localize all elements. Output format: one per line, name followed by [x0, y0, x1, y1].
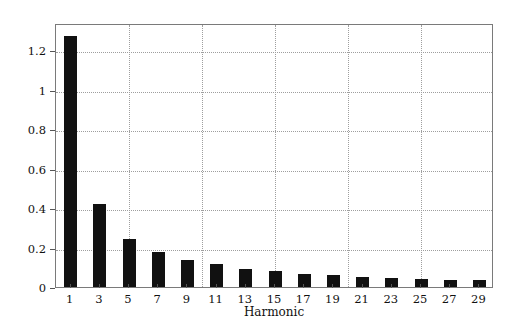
x-tick-label: 21 — [354, 292, 369, 306]
x-tick-label: 1 — [66, 292, 73, 306]
bar — [327, 275, 340, 287]
y-tick-label: 0.2 — [28, 242, 46, 256]
x-tick-label: 15 — [267, 292, 282, 306]
y-tick-label: 0.8 — [28, 123, 46, 137]
y-tick-label: 0.4 — [28, 202, 46, 216]
x-tick-label: 13 — [237, 292, 252, 306]
bar-chart-figure: Amplitude of force 00.20.40.60.811.2 135… — [0, 0, 517, 329]
x-tick-label: 7 — [154, 292, 161, 306]
x-tick-label: 19 — [325, 292, 340, 306]
bar — [181, 260, 194, 287]
y-tick-label: 1 — [39, 84, 46, 98]
bar — [415, 279, 428, 287]
x-tick-mark — [157, 284, 158, 288]
bar — [298, 274, 311, 287]
grid-line-vertical — [202, 25, 203, 287]
bar — [93, 204, 106, 287]
bar — [385, 278, 398, 287]
y-axis-ticks: 00.20.40.60.811.2 — [0, 24, 55, 288]
bar — [123, 239, 136, 287]
x-tick-mark — [274, 284, 275, 288]
x-tick-mark — [128, 284, 129, 288]
x-tick-mark — [99, 284, 100, 288]
grid-line-horizontal — [56, 171, 492, 172]
x-tick-mark — [362, 284, 363, 288]
y-tick-mark — [50, 288, 55, 289]
y-tick-label: 1.2 — [28, 44, 46, 58]
grid-line-vertical — [275, 25, 276, 287]
x-tick-label: 25 — [413, 292, 428, 306]
x-tick-mark — [216, 284, 217, 288]
bar — [356, 277, 369, 287]
x-tick-mark — [303, 284, 304, 288]
x-tick-mark — [332, 284, 333, 288]
grid-line-vertical — [129, 25, 130, 287]
grid-line-vertical — [348, 25, 349, 287]
x-tick-mark — [391, 284, 392, 288]
grid-layer — [56, 25, 492, 287]
bar-series — [56, 25, 492, 287]
bar — [64, 36, 77, 287]
x-tick-mark — [245, 284, 246, 288]
bar — [239, 269, 252, 287]
x-tick-label: 23 — [383, 292, 398, 306]
x-tick-label: 3 — [95, 292, 102, 306]
bar — [152, 252, 165, 287]
x-tick-label: 29 — [471, 292, 486, 306]
x-tick-label: 9 — [183, 292, 190, 306]
x-tick-mark — [449, 284, 450, 288]
y-tick-label: 0 — [39, 281, 46, 295]
x-tick-label: 11 — [208, 292, 223, 306]
x-tick-label: 27 — [442, 292, 457, 306]
x-tick-mark — [186, 284, 187, 288]
x-tick-mark — [478, 284, 479, 288]
x-tick-mark — [70, 284, 71, 288]
bar — [210, 264, 223, 287]
x-tick-label: 17 — [296, 292, 311, 306]
grid-line-horizontal — [56, 250, 492, 251]
x-axis-title: Harmonic — [55, 305, 493, 319]
grid-line-horizontal — [56, 210, 492, 211]
grid-line-horizontal — [56, 131, 492, 132]
bar — [473, 280, 486, 287]
plot-area — [55, 24, 493, 288]
grid-line-horizontal — [56, 92, 492, 93]
x-tick-label: 5 — [124, 292, 131, 306]
bar — [269, 271, 282, 287]
y-tick-label: 0.6 — [28, 163, 46, 177]
bar — [444, 280, 457, 287]
x-tick-mark — [420, 284, 421, 288]
grid-line-vertical — [421, 25, 422, 287]
grid-line-horizontal — [56, 52, 492, 53]
